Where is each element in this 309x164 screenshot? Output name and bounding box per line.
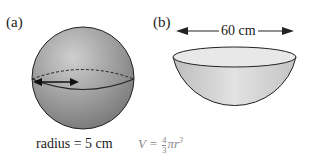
formula-fraction: 4 3 (162, 136, 167, 155)
bowl-rim (173, 47, 296, 67)
formula-exponent: 3 (179, 136, 183, 145)
radius-caption: radius = 5 cm (36, 136, 113, 152)
formula-lhs: V = (138, 136, 158, 151)
panel-a-label: (a) (6, 14, 23, 31)
sphere (32, 27, 134, 129)
formula-pi-r: πr (167, 136, 179, 151)
volume-formula: V = 4 3 πr3 (138, 136, 183, 155)
panel-b-label: (b) (153, 14, 171, 31)
fraction-denominator: 3 (162, 146, 167, 155)
hemisphere-bowl (173, 47, 296, 106)
width-dimension-text: 60 cm (219, 23, 258, 39)
